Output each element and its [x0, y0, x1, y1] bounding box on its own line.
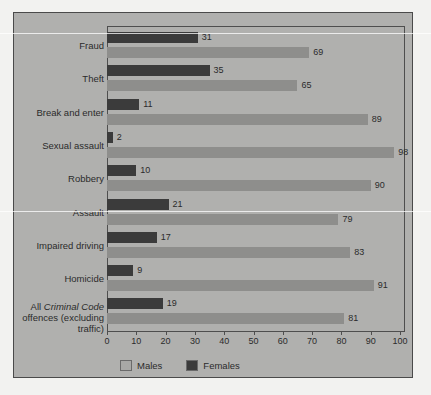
- bar-value-label-males: 91: [378, 280, 388, 291]
- bar-females: [107, 99, 139, 110]
- category-label: Break and enter: [0, 107, 104, 118]
- x-axis-tick-label: 70: [307, 336, 317, 346]
- x-axis-tick: [400, 331, 401, 335]
- bar-males: [107, 47, 309, 58]
- bar-value-label-males: 98: [398, 147, 408, 158]
- bar-males: [107, 313, 344, 324]
- category-label: Sexual assault: [0, 140, 104, 151]
- bar-group: 2179: [107, 199, 400, 225]
- bar-males: [107, 80, 297, 91]
- bar-value-label-males: 81: [348, 313, 358, 324]
- bar-females: [107, 232, 157, 243]
- bar-females: [107, 132, 113, 143]
- x-axis-tick: [371, 331, 372, 335]
- x-axis-tick: [136, 331, 137, 335]
- bar-value-label-males: 69: [313, 47, 323, 58]
- x-axis: 0102030405060708090100: [107, 331, 400, 353]
- bar-females: [107, 199, 169, 210]
- x-axis-tick: [166, 331, 167, 335]
- bar-females: [107, 165, 136, 176]
- bar-males: [107, 247, 350, 258]
- bar-value-label-females: 31: [202, 32, 212, 43]
- bar-value-label-females: 21: [173, 199, 183, 210]
- x-axis-tick: [224, 331, 225, 335]
- bar-group: 991: [107, 265, 400, 291]
- x-axis-tick: [254, 331, 255, 335]
- bar-females: [107, 65, 210, 76]
- x-axis-tick: [312, 331, 313, 335]
- chart-legend: MalesFemales: [120, 357, 258, 373]
- category-label: All Criminal Codeoffences (excludingtraf…: [0, 301, 104, 334]
- chart-figure: FraudTheftBreak and enterSexual assaultR…: [0, 0, 431, 395]
- bar-value-label-males: 90: [375, 180, 385, 191]
- bar-value-label-females: 35: [214, 65, 224, 76]
- legend-swatch-male: [120, 360, 132, 371]
- bar-value-label-males: 83: [354, 247, 364, 258]
- bar-males: [107, 147, 394, 158]
- category-label: Assault: [0, 207, 104, 218]
- category-axis-labels: FraudTheftBreak and enterSexual assaultR…: [0, 27, 104, 331]
- bar-value-label-females: 11: [143, 99, 152, 110]
- bar-group: 1981: [107, 298, 400, 324]
- legend-label: Females: [203, 360, 239, 371]
- legend-item: Females: [186, 360, 239, 371]
- x-axis-tick-label: 40: [219, 336, 229, 346]
- bar-group: 1189: [107, 99, 400, 125]
- x-axis-tick: [341, 331, 342, 335]
- legend-item: Males: [120, 360, 162, 371]
- x-axis-tick-label: 30: [190, 336, 200, 346]
- category-label: Impaired driving: [0, 240, 104, 251]
- x-axis-tick: [283, 331, 284, 335]
- bar-males: [107, 180, 371, 191]
- bar-value-label-females: 9: [137, 265, 142, 276]
- bar-value-label-females: 17: [161, 232, 171, 243]
- legend-label: Males: [137, 360, 162, 371]
- x-axis-tick-label: 80: [336, 336, 346, 346]
- bar-males: [107, 280, 374, 291]
- bar-females: [107, 298, 163, 309]
- bar-value-label-females: 19: [167, 298, 177, 309]
- bar-males: [107, 214, 338, 225]
- bar-value-label-females: 2: [117, 132, 122, 143]
- bar-females: [107, 32, 198, 43]
- plot-area: 3169356511892981090217917839911981: [107, 27, 400, 331]
- x-axis-tick-label: 60: [278, 336, 288, 346]
- x-axis-tick: [195, 331, 196, 335]
- bar-group: 1090: [107, 165, 400, 191]
- category-label: Robbery: [0, 173, 104, 184]
- x-axis-tick-label: 90: [366, 336, 376, 346]
- category-label: Theft: [0, 73, 104, 84]
- bar-value-label-males: 89: [372, 114, 382, 125]
- x-axis-tick-label: 20: [161, 336, 171, 346]
- x-axis-tick-label: 50: [248, 336, 258, 346]
- bar-group: 1783: [107, 232, 400, 258]
- x-axis-tick-label: 10: [131, 336, 141, 346]
- x-axis-tick-label: 0: [104, 336, 109, 346]
- bar-males: [107, 114, 368, 125]
- bar-value-label-males: 65: [301, 80, 311, 91]
- category-label: Homicide: [0, 273, 104, 284]
- bar-group: 298: [107, 132, 400, 158]
- x-axis-tick-label: 100: [392, 336, 407, 346]
- bar-females: [107, 265, 133, 276]
- bar-value-label-females: 10: [140, 165, 150, 176]
- category-label: Fraud: [0, 40, 104, 51]
- x-axis-tick: [107, 331, 108, 335]
- bar-group: 3565: [107, 65, 400, 91]
- bar-value-label-males: 79: [342, 214, 352, 225]
- legend-swatch-female: [186, 360, 198, 371]
- bar-group: 3169: [107, 32, 400, 58]
